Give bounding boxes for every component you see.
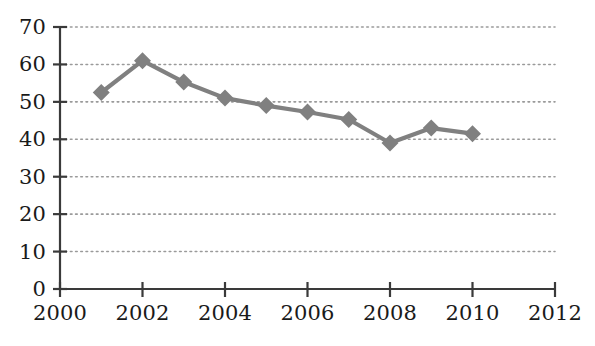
data-point-2006 — [299, 103, 316, 120]
x-tick-label-2004: 2004 — [198, 303, 252, 324]
y-tick-label-20: 20 — [19, 204, 46, 225]
axis-ticks — [53, 27, 555, 297]
x-tick-label-2010: 2010 — [445, 303, 499, 324]
data-point-2009 — [423, 120, 440, 137]
y-tick-label-70: 70 — [19, 17, 46, 38]
y-tick-label-10: 10 — [19, 241, 46, 262]
chart-plot-area — [0, 0, 595, 346]
data-point-2004 — [217, 90, 234, 107]
data-point-2008 — [382, 135, 399, 152]
data-point-2005 — [258, 97, 275, 114]
y-tick-label-50: 50 — [19, 91, 46, 112]
y-tick-label-0: 0 — [32, 279, 46, 300]
x-tick-label-2012: 2012 — [528, 303, 582, 324]
x-tick-label-2006: 2006 — [280, 303, 334, 324]
x-tick-label-2002: 2002 — [115, 303, 169, 324]
line-chart: 010203040506070 200020022004200620082010… — [0, 0, 595, 346]
y-tick-label-60: 60 — [19, 54, 46, 75]
data-point-2003 — [175, 74, 192, 91]
x-tick-label-2008: 2008 — [363, 303, 417, 324]
x-tick-label-2000: 2000 — [33, 303, 87, 324]
data-series — [93, 52, 481, 151]
y-tick-label-30: 30 — [19, 166, 46, 187]
y-tick-label-40: 40 — [19, 129, 46, 150]
series-line-1 — [101, 61, 472, 143]
data-point-2007 — [340, 111, 357, 128]
